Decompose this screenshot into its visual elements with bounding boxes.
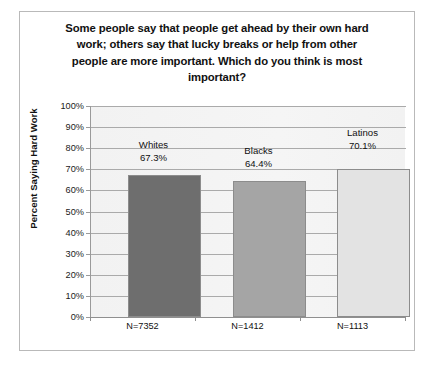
- x-axis-label-blacks: N=1412: [210, 321, 285, 331]
- bar-label-whites-group: Whites: [117, 139, 190, 152]
- y-tick-label-80: 80%: [42, 143, 84, 153]
- bar-latinos[interactable]: [337, 169, 410, 317]
- chart-title: Some people say that people get ahead by…: [38, 20, 396, 85]
- y-tick-label-0: 0%: [42, 312, 84, 322]
- y-tick-label-70: 70%: [42, 164, 84, 174]
- bar-label-blacks-value: 64.4%: [222, 158, 295, 171]
- x-tick-mark-0: [90, 317, 91, 321]
- y-tick-label-60: 60%: [42, 185, 84, 195]
- bar-whites[interactable]: [128, 175, 201, 317]
- y-tick-label-40: 40%: [42, 228, 84, 238]
- chart-title-line-4: important?: [38, 69, 396, 85]
- x-tick-mark-1: [195, 317, 196, 321]
- bar-label-whites-value: 67.3%: [117, 152, 190, 165]
- y-tick-label-20: 20%: [42, 270, 84, 280]
- x-axis-label-latinos: N=1113: [315, 321, 390, 331]
- bar-label-latinos-value: 70.1%: [326, 140, 399, 153]
- x-tick-mark-2: [300, 317, 301, 321]
- chart-title-line-2: work; others say that lucky breaks or he…: [38, 36, 396, 52]
- bar-blacks[interactable]: [233, 181, 306, 317]
- bar-label-whites: Whites 67.3%: [117, 139, 190, 164]
- bar-label-blacks: Blacks 64.4%: [222, 145, 295, 170]
- y-axis-title: Percent Saying Hard Work: [28, 89, 39, 249]
- y-tick-label-50: 50%: [42, 207, 84, 217]
- y-tick-label-100: 100%: [42, 101, 84, 111]
- bar-label-blacks-group: Blacks: [222, 145, 295, 158]
- gridline-100: [91, 106, 406, 107]
- y-tick-label-10: 10%: [42, 291, 84, 301]
- chart-title-line-1: Some people say that people get ahead by…: [38, 20, 396, 36]
- x-axis-line: [90, 317, 406, 318]
- x-tick-mark-3: [405, 317, 406, 321]
- chart-title-line-3: people are more important. Which do you …: [38, 53, 396, 69]
- y-tick-label-30: 30%: [42, 249, 84, 259]
- bar-label-latinos-group: Latinos: [326, 127, 399, 140]
- bar-label-latinos: Latinos 70.1%: [326, 127, 399, 152]
- y-tick-label-90: 90%: [42, 122, 84, 132]
- chart-figure: Some people say that people get ahead by…: [0, 0, 436, 366]
- x-axis-label-whites: N=7352: [105, 321, 180, 331]
